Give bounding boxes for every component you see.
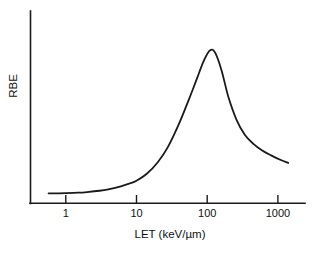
chart-figure: 1 10 100 1000 LET (keV/µm) RBE: [0, 0, 315, 253]
x-axis-title: LET (keV/µm): [135, 228, 206, 240]
x-tick-label-1: 1: [63, 207, 69, 219]
rbe-let-plot: 1 10 100 1000 LET (keV/µm) RBE: [0, 0, 315, 253]
x-tick-label-10: 10: [130, 207, 142, 219]
y-axis-title: RBE: [7, 74, 19, 98]
x-tick-label-1000: 1000: [266, 207, 290, 219]
x-tick-label-100: 100: [198, 207, 216, 219]
